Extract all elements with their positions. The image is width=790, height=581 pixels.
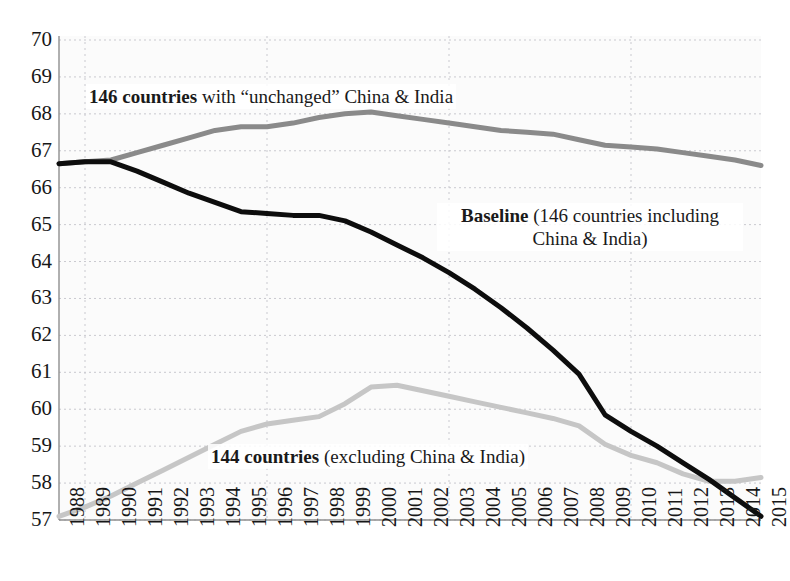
annotation-excluding: 144 countries (excluding China & India) [208, 444, 528, 469]
y-tick-label-68: 68 [12, 103, 52, 124]
x-tick-label-2010: 2010 [639, 487, 659, 527]
annotation-baseline: Baseline (146 countries including China … [437, 203, 743, 251]
x-tick-label-1994: 1994 [223, 487, 243, 527]
x-tick-label-2000: 2000 [379, 487, 399, 527]
y-tick-label-66: 66 [12, 177, 52, 198]
annotation-unchanged: 146 countries with “unchanged” China & I… [86, 84, 456, 109]
x-tick-label-2009: 2009 [613, 487, 633, 527]
y-tick-label-70: 70 [12, 29, 52, 50]
x-tick-label-1998: 1998 [327, 487, 347, 527]
x-tick-label-1999: 1999 [353, 487, 373, 527]
y-tick-label-62: 62 [12, 324, 52, 345]
x-tick-label-2005: 2005 [509, 487, 529, 527]
x-tick-label-2003: 2003 [457, 487, 477, 527]
x-tick-label-2006: 2006 [535, 487, 555, 527]
x-tick-label-2001: 2001 [405, 487, 425, 527]
y-tick-label-64: 64 [12, 251, 52, 272]
x-tick-label-1988: 1988 [67, 487, 87, 527]
x-tick-label-2002: 2002 [431, 487, 451, 527]
x-tick-label-1993: 1993 [197, 487, 217, 527]
y-tick-label-61: 61 [12, 361, 52, 382]
x-tick-label-2013: 2013 [717, 487, 737, 527]
annotation-excluding-rest: (excluding China & India) [319, 446, 525, 467]
y-tick-label-59: 59 [12, 435, 52, 456]
x-tick-label-1996: 1996 [275, 487, 295, 527]
y-tick-label-65: 65 [12, 214, 52, 235]
y-tick-label-69: 69 [12, 66, 52, 87]
x-tick-label-1989: 1989 [93, 487, 113, 527]
x-tick-label-2012: 2012 [691, 487, 711, 527]
annotation-unchanged-rest: with “unchanged” China & India [197, 86, 453, 107]
y-tick-label-63: 63 [12, 287, 52, 308]
y-tick-label-57: 57 [12, 509, 52, 530]
annotation-baseline-rest: (146 countries including China & India) [529, 205, 720, 249]
x-tick-label-2008: 2008 [587, 487, 607, 527]
x-tick-label-2007: 2007 [561, 487, 581, 527]
x-tick-label-2014: 2014 [743, 487, 763, 527]
x-tick-label-1990: 1990 [119, 487, 139, 527]
x-tick-label-2015: 2015 [769, 487, 789, 527]
y-tick-label-58: 58 [12, 472, 52, 493]
x-tick-label-2011: 2011 [665, 488, 685, 527]
annotation-excluding-bold: 144 countries [211, 446, 319, 467]
y-tick-label-60: 60 [12, 398, 52, 419]
annotation-baseline-bold: Baseline [461, 205, 529, 226]
x-tick-label-1992: 1992 [171, 487, 191, 527]
x-tick-label-1997: 1997 [301, 487, 321, 527]
annotation-unchanged-bold: 146 countries [89, 86, 197, 107]
x-tick-label-1995: 1995 [249, 487, 269, 527]
x-tick-label-1991: 1991 [145, 487, 165, 527]
y-tick-label-67: 67 [12, 140, 52, 161]
x-tick-label-2004: 2004 [483, 487, 503, 527]
